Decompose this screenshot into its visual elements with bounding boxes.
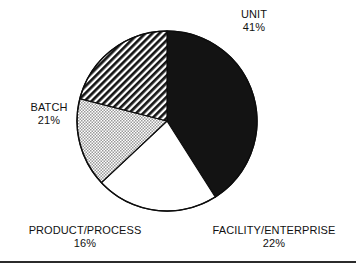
pie-label-product-process-name: PRODUCT/PROCESS (2, 224, 168, 237)
pie-label-facility-enterprise-name: FACILITY/ENTERPRISE (192, 224, 356, 237)
pie-label-unit: UNIT 41% (198, 8, 310, 34)
pie-label-batch: BATCH 21% (6, 101, 92, 127)
pie-label-facility-enterprise-percent: 22% (192, 237, 356, 250)
pie-label-product-process-percent: 16% (2, 237, 168, 250)
pie-label-product-process: PRODUCT/PROCESS 16% (2, 224, 168, 250)
figure-bottom-rule (0, 261, 356, 263)
pie-label-batch-percent: 21% (6, 114, 92, 127)
pie-label-unit-name: UNIT (198, 8, 310, 21)
pie-label-unit-percent: 41% (198, 21, 310, 34)
pie-chart-figure: UNIT 41% BATCH 21% PRODUCT/PROCESS 16% F… (0, 0, 356, 272)
pie-label-batch-name: BATCH (6, 101, 92, 114)
pie-slices (77, 31, 257, 211)
pie-label-facility-enterprise: FACILITY/ENTERPRISE 22% (192, 224, 356, 250)
